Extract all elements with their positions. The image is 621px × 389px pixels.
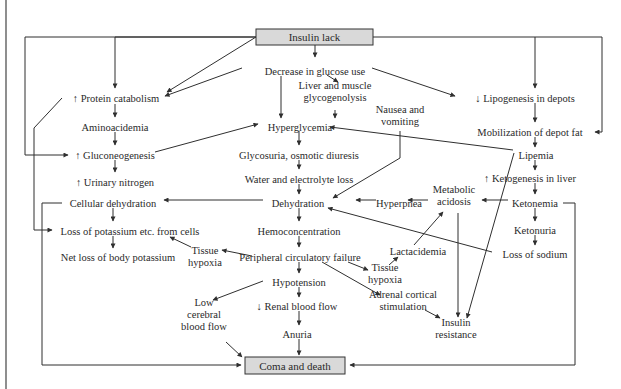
node-label: ↑ Urinary nitrogen <box>76 177 155 188</box>
node-label: Insulin <box>441 317 471 328</box>
node-ketonemia: Ketonemia <box>512 198 558 209</box>
node-label: glycogenolysis <box>304 92 367 103</box>
node-tissue-hypoxia-right: Tissuehypoxia <box>368 262 402 285</box>
node-loss-potassium: Loss of potassium etc. from cells <box>61 226 200 237</box>
node-insulin-lack: Insulin lack <box>256 29 373 45</box>
flow-arrow <box>372 68 455 96</box>
node-label: hypoxia <box>188 257 222 268</box>
flow-arrow <box>165 68 242 96</box>
node-label: Hyperpnea <box>376 198 422 209</box>
flow-arrow <box>333 131 400 198</box>
node-label: Cellular dehydration <box>70 198 157 209</box>
node-label: Coma and death <box>259 360 331 372</box>
node-label: ↑ Protein catabolism <box>73 93 159 104</box>
node-label: Hypotension <box>272 277 326 288</box>
node-hemoconcentration: Hemoconcentration <box>258 226 342 237</box>
node-label: Ketonuria <box>514 225 556 236</box>
node-coma-death: Coma and death <box>245 357 345 374</box>
node-adrenal: Adrenal corticalstimulation <box>369 289 437 312</box>
flow-arrow <box>226 342 242 357</box>
flow-arrow <box>167 37 256 92</box>
insulin-deficiency-flow-diagram: Insulin lackComa and death Decrease in g… <box>0 0 621 389</box>
node-nausea: Nausea andvomiting <box>376 104 425 127</box>
flow-arrow <box>414 212 443 245</box>
node-renal-flow: ↓ Renal blood flow <box>257 301 338 312</box>
node-label: Loss of sodium <box>503 249 568 260</box>
flow-arrow <box>425 310 440 318</box>
node-decrease-glucose: Decrease in glucose use <box>265 66 366 77</box>
node-label: Tissue <box>191 245 218 256</box>
node-label: cerebral <box>187 309 221 320</box>
node-label: Hemoconcentration <box>258 226 342 237</box>
node-label: acidosis <box>437 196 471 207</box>
node-glycosuria: Glycosuria, osmotic diuresis <box>239 150 359 161</box>
flow-arrow <box>155 124 258 152</box>
node-ketogenesis: ↑ Ketogenesis in liver <box>484 173 576 184</box>
node-label: Nausea and <box>376 104 425 115</box>
node-label: Decrease in glucose use <box>265 66 366 77</box>
node-label: Glycosuria, osmotic diuresis <box>239 150 359 161</box>
node-protein-catabolism: ↑ Protein catabolism <box>73 93 159 104</box>
node-label: Mobilization of depot fat <box>477 127 582 138</box>
node-water-loss: Water and electrolyte loss <box>245 174 354 185</box>
node-label: Insulin lack <box>289 31 341 43</box>
node-hyperpnea: Hyperpnea <box>376 198 422 209</box>
flow-arrow <box>348 262 368 270</box>
flow-arrow <box>34 98 62 230</box>
node-peripheral-failure: Peripheral circulatory failure <box>239 252 361 263</box>
node-label: vomiting <box>381 116 420 127</box>
node-label: Loss of potassium etc. from cells <box>61 226 200 237</box>
node-label: ↑ Ketogenesis in liver <box>484 173 576 184</box>
flow-arrow <box>170 237 191 247</box>
node-label: Hyperglycemia <box>268 122 333 133</box>
node-aminoacidemia: Aminoacidemia <box>81 122 148 133</box>
node-net-loss-potassium: Net loss of body potassium <box>61 252 175 263</box>
node-label: Liver and muscle <box>299 80 372 91</box>
node-lactacidemia: Lactacidemia <box>390 246 447 257</box>
node-anuria: Anuria <box>282 329 311 340</box>
node-label: Peripheral circulatory failure <box>239 252 361 263</box>
node-label: Anuria <box>282 329 311 340</box>
flow-arrow <box>213 281 263 300</box>
node-metabolic-acidosis: Metabolicacidosis <box>433 184 476 207</box>
node-label: ↓ Lipogenesis in depots <box>475 93 574 104</box>
node-liver-glyco: Liver and muscleglycogenolysis <box>299 80 372 103</box>
node-label: Water and electrolyte loss <box>245 174 354 185</box>
node-cellular-dehydration: Cellular dehydration <box>70 198 157 209</box>
node-label: Aminoacidemia <box>81 122 148 133</box>
node-label: Ketonemia <box>512 198 558 209</box>
node-label: stimulation <box>379 301 427 312</box>
node-lipemia: Lipemia <box>519 150 554 161</box>
node-low-cerebral: Lowcerebralblood flow <box>181 297 227 332</box>
node-insulin-resistance: Insulinresistance <box>435 317 477 340</box>
node-label: Adrenal cortical <box>369 289 437 300</box>
node-label: hypoxia <box>368 274 402 285</box>
node-label: Tissue <box>371 262 398 273</box>
nodes-layer: Decrease in glucose useLiver and muscleg… <box>61 66 583 340</box>
node-urinary-nitrogen: ↑ Urinary nitrogen <box>76 177 155 188</box>
node-label: Metabolic <box>433 184 476 195</box>
node-tissue-hypoxia-left: Tissuehypoxia <box>188 245 222 268</box>
node-mobilization: Mobilization of depot fat <box>477 127 582 138</box>
node-label: Net loss of body potassium <box>61 252 175 263</box>
node-label: Lipemia <box>519 150 554 161</box>
node-label: blood flow <box>181 321 227 332</box>
node-dehydration: Dehydration <box>272 198 325 209</box>
node-label: Dehydration <box>272 198 325 209</box>
node-ketonuria: Ketonuria <box>514 225 556 236</box>
node-label: ↑ Gluconeogenesis <box>75 150 155 161</box>
node-label: Lactacidemia <box>390 246 447 257</box>
node-loss-sodium: Loss of sodium <box>503 249 568 260</box>
node-gluconeogenesis: ↑ Gluconeogenesis <box>75 150 155 161</box>
node-hyperglycemia: Hyperglycemia <box>268 122 333 133</box>
node-lipogenesis: ↓ Lipogenesis in depots <box>475 93 574 104</box>
node-label: ↓ Renal blood flow <box>257 301 338 312</box>
node-label: Low <box>194 297 214 308</box>
node-hypotension: Hypotension <box>272 277 326 288</box>
node-label: resistance <box>435 329 477 340</box>
